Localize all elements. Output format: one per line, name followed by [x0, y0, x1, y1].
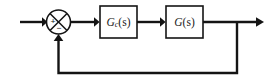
- error-arrowhead: [94, 17, 100, 27]
- plant-block[interactable]: G(s): [166, 6, 203, 38]
- controller-to-plant-arrowhead: [160, 17, 166, 27]
- controller-block[interactable]: Gc(s): [100, 6, 137, 38]
- output-wire: [203, 17, 264, 27]
- output-arrowhead: [256, 17, 264, 27]
- summing-junction-plus-sign: +: [50, 16, 55, 26]
- plant-block-label: G(s): [174, 15, 195, 28]
- error-wire: [71, 17, 100, 27]
- control-block-diagram: + − Gc(s) G(s): [0, 0, 280, 81]
- feedback-arrowhead: [54, 34, 64, 41]
- feedback-wire: [54, 22, 237, 73]
- plant-label-argument: (s): [183, 15, 195, 28]
- input-wire: [20, 17, 48, 27]
- controller-to-plant-wire: [137, 17, 166, 27]
- controller-block-label: Gc(s): [106, 15, 130, 29]
- summing-junction-minus-sign: −: [56, 23, 61, 33]
- block-diagram-container: + − Gc(s) G(s): [0, 0, 280, 81]
- controller-label-argument: (s): [118, 15, 130, 28]
- summing-junction: + −: [47, 10, 71, 34]
